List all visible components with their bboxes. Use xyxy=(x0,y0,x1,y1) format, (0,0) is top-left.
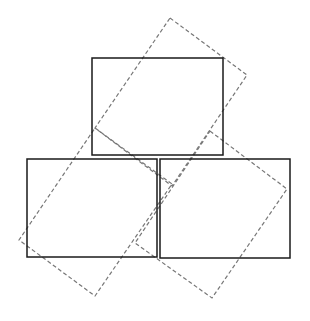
diagram-canvas xyxy=(0,0,310,321)
bottom-left-box xyxy=(27,159,157,257)
diagram-svg xyxy=(0,0,310,321)
top-rotated-box xyxy=(95,18,247,186)
right-rotated-box xyxy=(135,131,287,298)
left-rotated-box xyxy=(19,128,172,296)
